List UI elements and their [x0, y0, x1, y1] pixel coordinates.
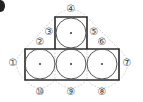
- label-2: ②: [36, 36, 45, 47]
- center-dot: [70, 32, 72, 34]
- outline-shape: [25, 17, 119, 80]
- label-6: ⑥: [98, 36, 107, 47]
- label-3: ③: [45, 26, 54, 37]
- label-10: ⑩: [36, 86, 45, 97]
- label-8: ⑧: [98, 86, 107, 97]
- label-7: ⑦: [123, 57, 132, 68]
- center-dot: [39, 63, 41, 65]
- label-9: ⑨: [67, 86, 76, 97]
- label-1: ①: [9, 57, 18, 68]
- figure-canvas: ①②③④⑤⑥⑦⑧⑨⑩: [0, 0, 143, 102]
- circle-packing-figure: ①②③④⑤⑥⑦⑧⑨⑩: [0, 0, 143, 102]
- center-dot: [101, 63, 103, 65]
- label-4: ④: [67, 3, 76, 14]
- center-dot: [70, 63, 72, 65]
